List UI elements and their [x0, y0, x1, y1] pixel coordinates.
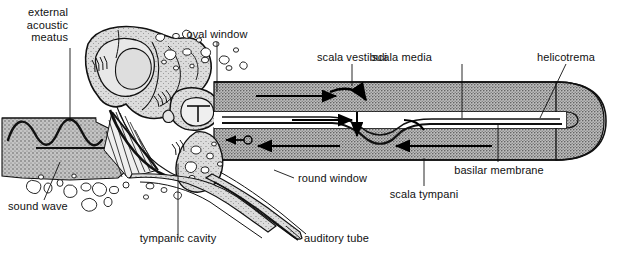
label-sound-wave: sound wave: [8, 200, 68, 213]
bone-fragments-inferior: [143, 183, 181, 199]
label-oval-window: oval window: [157, 28, 277, 41]
round-window-region: [172, 132, 252, 193]
diagram-canvas: [0, 0, 622, 257]
label-round-window: round window: [298, 172, 367, 185]
label-tympanic-cavity: tympanic cavity: [118, 232, 238, 245]
label-external-acoustic-meatus: external acoustic meatus: [0, 6, 68, 44]
ear-anatomy-figure: external acoustic meatus oval window sca…: [0, 0, 622, 257]
label-auditory-tube: auditory tube: [304, 232, 369, 245]
label-basilar-membrane: basilar membrane: [434, 164, 564, 177]
label-helicotrema: helicotrema: [516, 51, 616, 64]
label-scala-tympani: scala tympani: [366, 188, 482, 201]
label-scala-media: scala media: [310, 51, 494, 64]
